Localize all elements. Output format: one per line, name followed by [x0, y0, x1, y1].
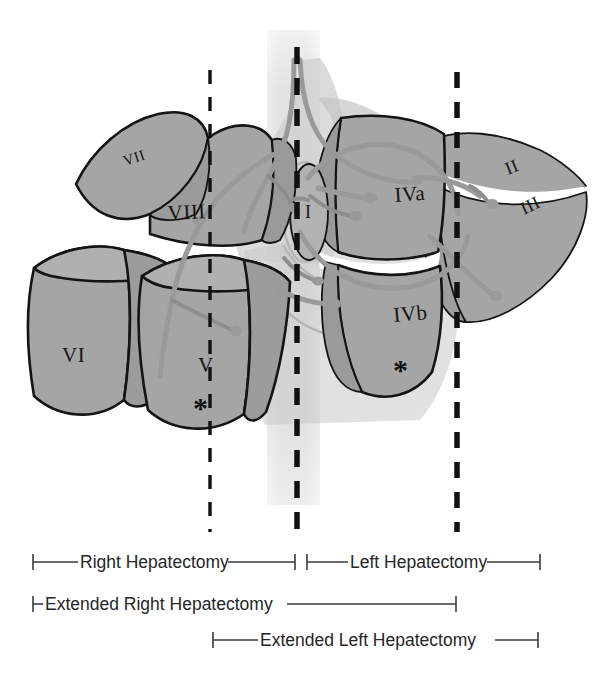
asterisk-segment-ivb: *	[393, 353, 408, 386]
bracket-right-hepatectomy: Right Hepatectomy	[33, 552, 295, 572]
bracket-label-right-hepatectomy: Right Hepatectomy	[80, 552, 229, 572]
bracket-label-extended-right-hepatectomy: Extended Right Hepatectomy	[45, 594, 273, 614]
bracket-label-left-hepatectomy: Left Hepatectomy	[350, 552, 487, 572]
segment-label-viii: VIII	[167, 199, 206, 225]
segment-label-vi: VI	[62, 343, 85, 367]
segment-label-ivb: IVb	[392, 300, 428, 327]
bracket-extended-right-hepatectomy: Extended Right Hepatectomy	[33, 594, 456, 614]
asterisk-segment-v: *	[193, 391, 208, 424]
bracket-label-extended-left-hepatectomy: Extended Left Hepatectomy	[260, 630, 476, 650]
liver-segment-figure: II III IVa IVb I V VI VII VIII * * Right…	[0, 0, 601, 690]
liver-anatomy-illustration: II III IVa IVb I V VI VII VIII * * Right…	[0, 0, 601, 690]
bracket-left-hepatectomy: Left Hepatectomy	[307, 552, 540, 572]
segment-label-v: V	[198, 353, 214, 377]
segment-group-v	[139, 255, 290, 428]
bracket-extended-left-hepatectomy: Extended Left Hepatectomy	[213, 630, 538, 650]
segment-label-iva: IVa	[394, 181, 426, 207]
segment-label-i: I	[305, 202, 312, 222]
